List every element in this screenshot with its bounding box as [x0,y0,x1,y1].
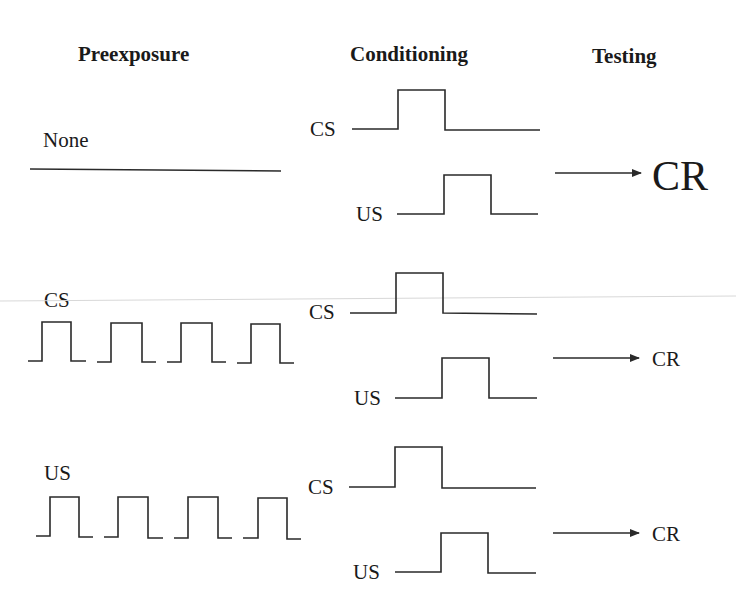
row3-preexposure-pulse-train [36,497,301,539]
scan-line-artifact [0,296,736,301]
row2-us-pulse [395,358,537,398]
diagram-canvas [0,0,736,611]
row3-cs-pulse [349,447,536,488]
row1-preexposure-flat-line [30,169,281,171]
row2-preexposure-pulse-train [28,322,294,363]
row1-us-pulse [397,175,538,214]
row3-us-pulse [395,533,536,573]
row2-cs-pulse [350,273,537,314]
row1-cs-pulse [352,90,540,130]
